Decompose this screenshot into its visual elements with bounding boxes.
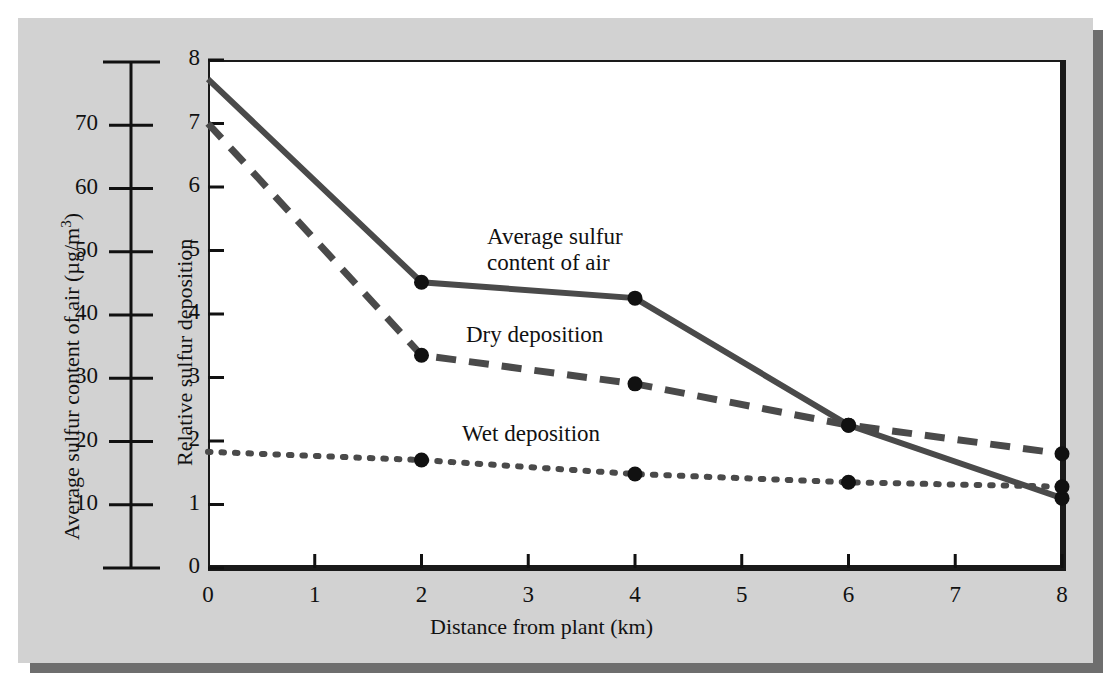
- secondary-tick-label: 60: [40, 174, 98, 200]
- series-label-wet-deposition: Wet deposition: [462, 421, 600, 447]
- x-axis-title: Distance from plant (km): [430, 614, 653, 640]
- series-marker: [414, 453, 429, 468]
- series-marker: [414, 275, 429, 290]
- primary-tick-label: 1: [162, 490, 200, 516]
- x-tick-label: 3: [503, 582, 553, 608]
- series-label-dry-deposition: Dry deposition: [466, 322, 603, 348]
- data-series-layer: [208, 79, 1070, 506]
- series-marker: [841, 418, 856, 433]
- primary-tick-label: 6: [162, 172, 200, 198]
- secondary-axis-title: Average sulfur content of air (µg/m3): [58, 213, 85, 540]
- x-tick-label: 4: [610, 582, 660, 608]
- x-tick-label: 8: [1037, 582, 1087, 608]
- x-tick-label: 1: [290, 582, 340, 608]
- series-marker: [628, 291, 643, 306]
- x-axis-ticks: [315, 554, 1062, 568]
- series-marker: [414, 348, 429, 363]
- x-tick-label: 7: [930, 582, 980, 608]
- primary-axis-title: Relative sulfur deposition: [172, 239, 198, 466]
- figure-root: 70605040302010 876543210 012345678 Avera…: [0, 0, 1113, 683]
- primary-tick-label: 8: [162, 45, 200, 71]
- secondary-tick-label: 70: [40, 110, 98, 136]
- x-tick-label: 0: [183, 582, 233, 608]
- series-marker: [1055, 479, 1070, 494]
- series-marker: [1055, 446, 1070, 461]
- secondary-axis-title-text: Average sulfur content of air (µg/m3): [59, 213, 84, 540]
- secondary-axis-scale: [103, 62, 160, 568]
- series-marker: [841, 475, 856, 490]
- primary-tick-label: 7: [162, 109, 200, 135]
- series-marker: [628, 376, 643, 391]
- x-tick-label: 2: [397, 582, 447, 608]
- series-marker: [628, 467, 643, 482]
- primary-tick-label: 0: [162, 553, 200, 579]
- series-label-average-sulfur: Average sulfur content of air: [487, 224, 623, 276]
- x-tick-label: 5: [717, 582, 767, 608]
- series-solid: [208, 79, 1070, 506]
- series-line: [208, 124, 1062, 454]
- x-tick-label: 6: [824, 582, 874, 608]
